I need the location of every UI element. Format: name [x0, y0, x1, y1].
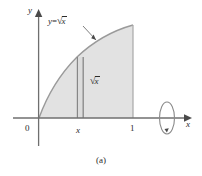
curve-equation-sqrt: √x [57, 16, 67, 26]
curve-equation-radicand: x [62, 16, 67, 26]
rotation-indicator-arrowhead [165, 128, 169, 132]
curve-equation-label: y=√x [48, 16, 67, 26]
x-tick-label-one: 1 [130, 124, 135, 133]
shaded-region-under-curve [39, 25, 133, 118]
figure-rotation-about-x-axis: y x 0 x 1 y=√x √x (a) [0, 0, 202, 176]
strip-height-radicand: x [95, 76, 100, 86]
y-axis-arrowhead [35, 9, 42, 17]
x-tick-label-x: x [76, 126, 80, 135]
strip-height-sqrt: √x [90, 76, 100, 86]
figure-canvas [0, 0, 202, 176]
figure-caption: (a) [0, 155, 202, 165]
strip-height-label: √x [90, 76, 100, 86]
y-axis-label: y [28, 6, 32, 15]
x-axis-label: x [186, 120, 190, 129]
origin-tick-label: 0 [25, 124, 30, 133]
